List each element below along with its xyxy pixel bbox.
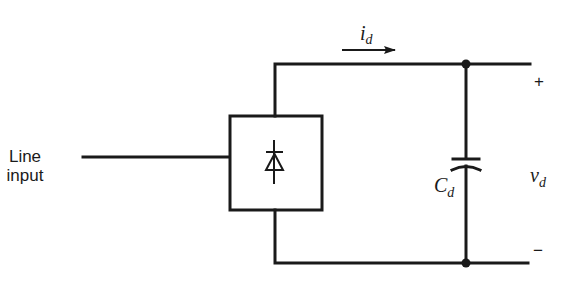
rectifier-circuit-diagram: Line input id Cd vd + − [0, 0, 575, 292]
capacitor-label: Cd [434, 174, 455, 200]
rectifier-block [230, 116, 322, 210]
line-input-label-line2: input [7, 166, 44, 185]
current-arrow-icon [342, 46, 396, 54]
junction-dot-bottom [462, 259, 471, 268]
line-input-label-line1: Line [9, 147, 41, 166]
plus-terminal: + [534, 72, 544, 91]
negative-rail [275, 210, 528, 263]
diode-icon [266, 140, 283, 184]
minus-terminal: − [533, 241, 543, 260]
positive-rail [275, 64, 530, 116]
junction-dot-top [462, 60, 471, 69]
current-label: id [360, 22, 374, 47]
voltage-label: vd [530, 164, 547, 190]
